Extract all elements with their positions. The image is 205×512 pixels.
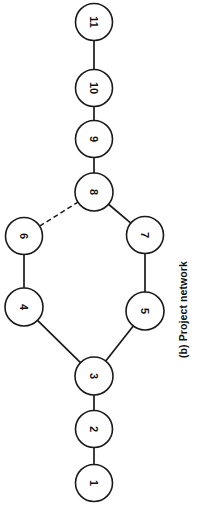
- node-1[interactable]: 1: [76, 465, 113, 502]
- node-label-9: 9: [88, 136, 100, 142]
- figure-caption-text: (b) Project network: [176, 246, 190, 358]
- node-7[interactable]: 7: [127, 217, 164, 254]
- node-label-11: 11: [88, 16, 100, 28]
- node-label-10: 10: [88, 82, 100, 94]
- node-label-5: 5: [139, 308, 151, 314]
- node-4[interactable]: 4: [5, 288, 43, 326]
- node-label-1: 1: [88, 480, 100, 486]
- figure-caption: (b) Project network: [176, 246, 190, 358]
- edge-3-4: [38, 320, 81, 362]
- nodes-group: 1234567891011: [5, 4, 164, 502]
- node-label-8: 8: [88, 189, 100, 195]
- edge-3-5: [106, 326, 134, 361]
- node-label-3: 3: [88, 373, 100, 379]
- node-label-4: 4: [18, 304, 30, 311]
- node-label-2: 2: [88, 426, 100, 432]
- node-8[interactable]: 8: [75, 173, 113, 211]
- edge-6-8: [40, 202, 78, 226]
- node-6[interactable]: 6: [6, 218, 43, 255]
- node-9[interactable]: 9: [76, 121, 113, 158]
- node-2[interactable]: 2: [76, 411, 113, 448]
- node-3[interactable]: 3: [75, 357, 113, 395]
- node-10[interactable]: 10: [76, 70, 113, 107]
- project-network-figure: 1234567891011 (b) Project network: [0, 0, 205, 512]
- node-label-6: 6: [18, 233, 30, 239]
- node-5[interactable]: 5: [126, 292, 164, 330]
- edge-7-8: [109, 204, 131, 223]
- node-label-7: 7: [139, 232, 151, 238]
- network-diagram: 1234567891011: [0, 0, 205, 512]
- node-11[interactable]: 11: [76, 4, 113, 41]
